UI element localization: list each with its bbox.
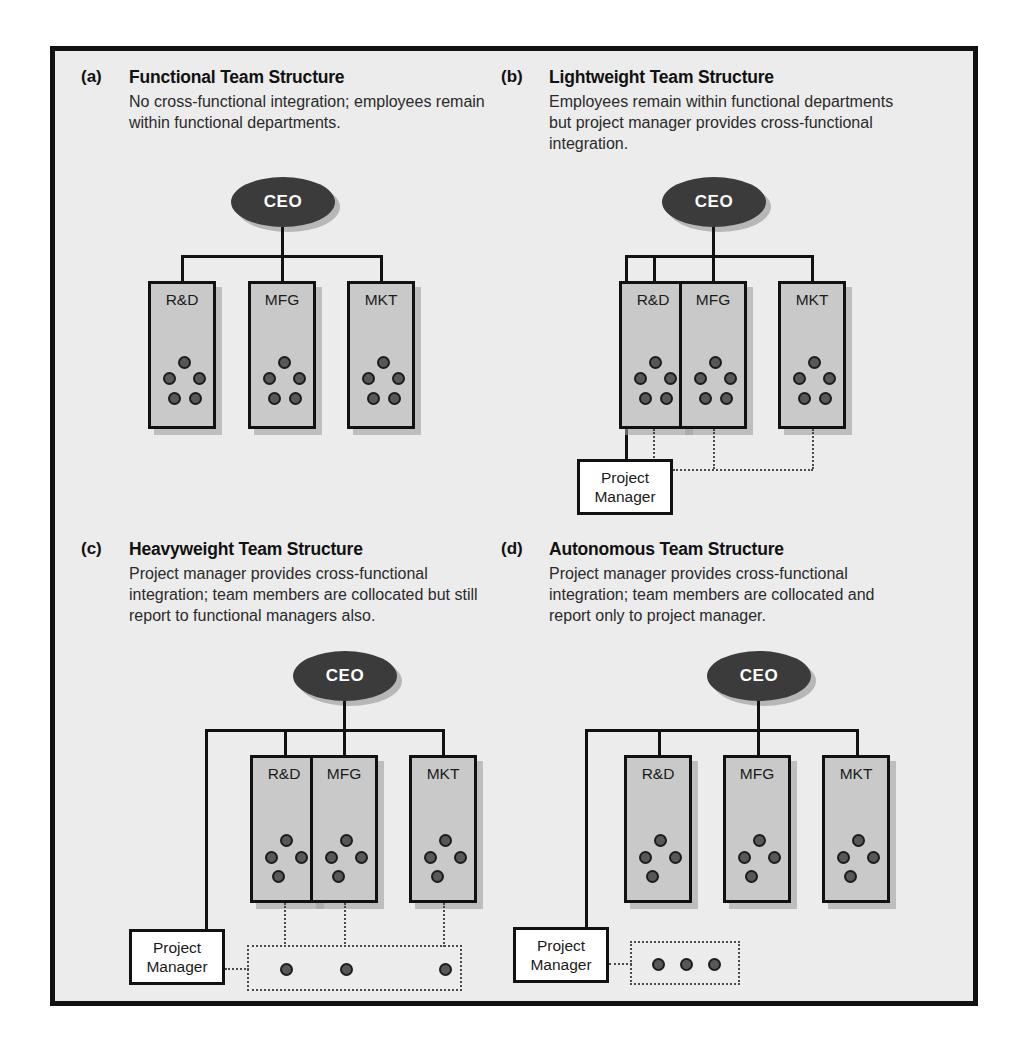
department-label-mfg-d: MFG [726,765,788,783]
employee-dot [649,356,662,369]
dotted-pm-team-link-d [609,963,632,965]
employee-dot [268,392,281,405]
employee-dot [168,392,181,405]
drop-rd-a [181,255,184,283]
ceo-label-a: CEO [264,192,302,212]
department-box-rd-b: R&D [619,281,687,429]
ceo-stem-b [712,227,715,257]
department-box-mkt-d: MKT [822,755,890,903]
department-label-rd-a: R&D [151,291,213,309]
department-box-mkt-a: MKT [347,281,415,429]
dotted-link-mkt-c [443,903,445,947]
department-box-mfg-c: MFG [310,755,378,903]
department-box-mfg-d: MFG [723,755,791,903]
employee-dot [388,392,401,405]
employee-dot [289,392,302,405]
team-member-dot [280,963,293,976]
employee-dot [793,372,806,385]
panel-d-diagram: CEO R&D MFG [485,529,925,1001]
employee-dot [272,870,285,883]
department-box-rd-d: R&D [624,755,692,903]
employee-dot [367,392,380,405]
drop-mfg-a [281,255,284,283]
ceo-node-a: CEO [231,177,335,227]
drop-mkt-d [856,729,859,757]
ceo-label-b: CEO [695,192,733,212]
drop-mkt-c [442,729,445,757]
project-manager-label-line1: Project [153,938,201,957]
employee-dot [439,834,452,847]
employee-dot [654,834,667,847]
drop-mfg-b [712,255,715,283]
ceo-node-b: CEO [662,177,766,227]
drop-rd-d [658,729,661,757]
employee-dot [660,392,673,405]
department-label-mkt-b: MKT [781,291,843,309]
department-label-rd-c: R&D [253,765,315,783]
employee-dot [424,851,437,864]
pm-bus-extension-c [205,729,287,732]
department-box-rd-c: R&D [250,755,318,903]
pm-connector-d [585,729,588,927]
ceo-label-d: CEO [740,666,778,686]
ceo-stem-c [343,701,346,731]
project-manager-box-d: Project Manager [513,927,609,983]
dotted-pm-team-link-c [225,968,249,970]
drop-rd-c [284,729,287,757]
pm-bus-extension-b [625,255,656,258]
employee-dot [699,392,712,405]
department-label-mfg-a: MFG [251,291,313,309]
employee-dot [639,392,652,405]
ceo-node-d: CEO [707,651,811,701]
ceo-stem-d [757,701,760,731]
pm-connector-c [205,729,208,929]
employee-dot [377,356,390,369]
employee-dot [639,851,652,864]
department-label-rd-d: R&D [627,765,689,783]
employee-dot [265,851,278,864]
employee-dot [867,851,880,864]
employee-dot [325,851,338,864]
department-box-rd-a: R&D [148,281,216,429]
collocated-team-box-c [247,945,462,991]
ceo-stem-a [281,227,284,257]
project-manager-label-line2: Manager [146,957,207,976]
dotted-link-mkt-b [812,429,814,469]
department-label-mkt-a: MKT [350,291,412,309]
employee-dot [852,834,865,847]
team-member-dot [708,958,721,971]
team-member-dot [652,958,665,971]
employee-dot [163,372,176,385]
ceo-bus-b [653,255,814,258]
employee-dot [753,834,766,847]
employee-dot [332,870,345,883]
panel-b-diagram: CEO R&D MFG [485,57,925,529]
panel-functional-team-structure: (a) Functional Team Structure No cross-f… [65,57,505,529]
department-label-mfg-b: MFG [682,291,744,309]
employee-dot [431,870,444,883]
project-manager-label-line1: Project [537,936,585,955]
employee-dot [280,834,293,847]
employee-dot [189,392,202,405]
employee-dot [454,851,467,864]
employee-dot [664,372,677,385]
project-manager-label-line2: Manager [530,955,591,974]
department-box-mfg-b: MFG [679,281,747,429]
employee-dot [724,372,737,385]
pm-bus-extension-d [585,729,661,732]
ceo-label-c: CEO [326,666,364,686]
drop-mkt-a [380,255,383,283]
team-member-dot [439,963,452,976]
employee-dot [808,356,821,369]
ceo-bus-c [284,729,445,732]
employee-dot [340,834,353,847]
employee-dot [694,372,707,385]
dotted-link-mfg-b [713,429,715,469]
team-member-dot [680,958,693,971]
employee-dot [178,356,191,369]
employee-dot [738,851,751,864]
panel-autonomous-team-structure: (d) Autonomous Team Structure Project ma… [485,529,925,1001]
employee-dot [837,851,850,864]
dotted-link-mfg-c [344,903,346,947]
employee-dot [720,392,733,405]
